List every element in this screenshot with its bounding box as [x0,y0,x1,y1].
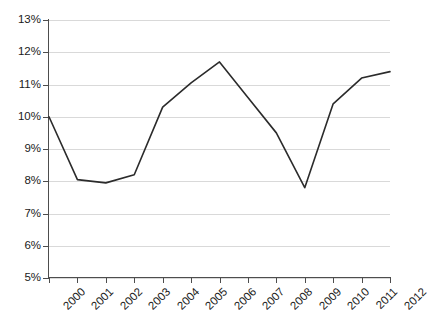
data-line-series-0 [49,62,390,188]
